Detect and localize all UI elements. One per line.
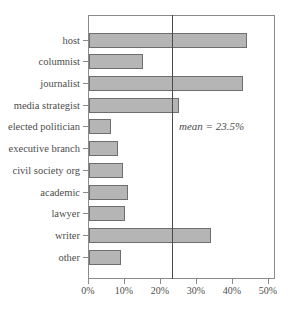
category-label: academic xyxy=(0,185,80,200)
bar xyxy=(89,33,247,48)
x-axis-tick xyxy=(124,279,125,284)
x-axis-tick xyxy=(196,279,197,284)
x-tick-label: 50% xyxy=(251,285,285,296)
bar xyxy=(89,141,118,156)
y-axis-tick xyxy=(83,148,88,149)
category-label: writer xyxy=(0,228,80,243)
x-tick-label: 30% xyxy=(179,285,213,296)
y-axis-tick xyxy=(83,126,88,127)
category-label: journalist xyxy=(0,76,80,91)
category-label: host xyxy=(0,33,80,48)
y-axis-tick xyxy=(83,235,88,236)
category-label: executive branch xyxy=(0,141,80,156)
bar xyxy=(89,54,143,69)
x-axis-tick xyxy=(268,279,269,284)
bar xyxy=(89,76,243,91)
category-label: other xyxy=(0,250,80,265)
y-axis-tick xyxy=(83,105,88,106)
y-axis-tick xyxy=(83,170,88,171)
x-tick-label: 10% xyxy=(107,285,141,296)
category-label: elected politician xyxy=(0,119,80,134)
bar xyxy=(89,228,211,243)
y-axis-tick xyxy=(83,257,88,258)
bar xyxy=(89,250,121,265)
bar xyxy=(89,163,123,178)
mean-reference-line xyxy=(172,15,173,279)
bar-chart: hostcolumnistjournalistmedia strategiste… xyxy=(0,0,292,313)
bar xyxy=(89,119,111,134)
category-label: columnist xyxy=(0,54,80,69)
bar xyxy=(89,185,128,200)
x-tick-label: 40% xyxy=(215,285,249,296)
y-axis-tick xyxy=(83,61,88,62)
x-axis-tick xyxy=(160,279,161,284)
x-axis-tick xyxy=(88,279,89,284)
category-label: media strategist xyxy=(0,98,80,113)
y-axis-tick xyxy=(83,40,88,41)
x-axis-tick xyxy=(232,279,233,284)
y-axis-tick xyxy=(83,213,88,214)
x-tick-label: 20% xyxy=(143,285,177,296)
bar xyxy=(89,206,125,221)
y-axis-tick xyxy=(83,83,88,84)
bar xyxy=(89,98,179,113)
y-axis-tick xyxy=(83,192,88,193)
category-label: lawyer xyxy=(0,206,80,221)
x-tick-label: 0% xyxy=(71,285,105,296)
mean-annotation: mean = 23.5% xyxy=(179,120,244,132)
category-label: civil society org xyxy=(0,163,80,178)
